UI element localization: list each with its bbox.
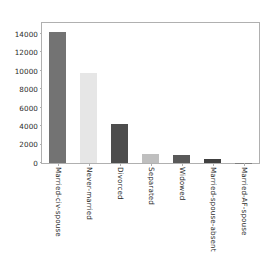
x-tick-label: Divorced [112, 167, 119, 200]
y-tick-label: 2000 [19, 141, 42, 148]
y-tick-label: 4000 [19, 123, 42, 130]
y-tick-label: 0 [33, 159, 42, 166]
bar-married-civ-spouse [49, 32, 66, 163]
plot-area: 02000400060008000100001200014000 Married… [41, 22, 260, 164]
bars-layer [42, 23, 259, 163]
y-tick-label: 12000 [15, 49, 42, 56]
x-tick-mark [213, 163, 214, 166]
x-tick-label-text: Separated [147, 167, 154, 205]
x-tick-label-text: Married-AF-spouse [240, 167, 247, 236]
bar-separated [142, 154, 159, 163]
x-tick-label-text: Married-spouse-absent [209, 167, 216, 252]
x-tick-label: Married-civ-spouse [50, 167, 57, 237]
bar-widowed [173, 155, 190, 163]
x-tick-mark [182, 163, 183, 166]
x-tick-mark [58, 163, 59, 166]
bar-chart-figure: 02000400060008000100001200014000 Married… [0, 0, 273, 261]
x-tick-label: Married-spouse-absent [205, 167, 212, 252]
x-tick-mark [120, 163, 121, 166]
x-tick-mark [89, 163, 90, 166]
bar-never-married [80, 73, 97, 163]
x-tick-mark [151, 163, 152, 166]
x-tick-label-text: Never-married [85, 167, 92, 220]
y-tick-label: 6000 [19, 104, 42, 111]
x-tick-label: Separated [143, 167, 150, 205]
x-tick-label: Widowed [174, 167, 181, 200]
x-tick-label: Never-married [81, 167, 88, 220]
x-tick-label-text: Married-civ-spouse [54, 167, 61, 237]
y-tick-label: 10000 [15, 67, 42, 74]
y-tick-label: 8000 [19, 86, 42, 93]
bar-divorced [111, 124, 128, 163]
y-tick-label: 14000 [15, 30, 42, 37]
x-tick-label: Married-AF-spouse [236, 167, 243, 236]
x-tick-mark [244, 163, 245, 166]
x-tick-label-text: Divorced [116, 167, 123, 200]
x-tick-label-text: Widowed [178, 167, 185, 200]
